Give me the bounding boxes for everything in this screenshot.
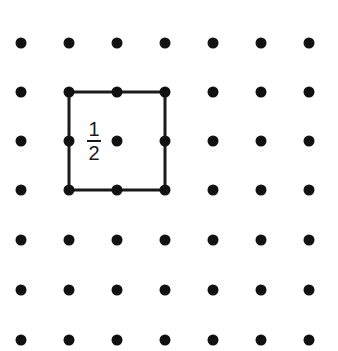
- grid-dot: [208, 235, 219, 246]
- grid-dot: [304, 185, 315, 196]
- grid-dots: [16, 38, 315, 346]
- grid-dot: [304, 235, 315, 246]
- grid-dot: [208, 87, 219, 98]
- grid-dot: [160, 87, 171, 98]
- grid-dot: [160, 185, 171, 196]
- grid-dot: [304, 285, 315, 296]
- grid-dot: [112, 87, 123, 98]
- grid-dot: [112, 136, 123, 147]
- grid-dot: [304, 38, 315, 49]
- grid-dot: [208, 38, 219, 49]
- grid-dot: [160, 235, 171, 246]
- grid-dot: [208, 185, 219, 196]
- grid-dot: [256, 335, 267, 346]
- fraction-numerator: 1: [84, 119, 104, 139]
- grid-dot: [16, 87, 27, 98]
- grid-dot: [304, 87, 315, 98]
- grid-dot: [16, 185, 27, 196]
- grid-dot: [64, 38, 75, 49]
- grid-dot: [64, 87, 75, 98]
- grid-dot: [16, 285, 27, 296]
- grid-dot: [256, 235, 267, 246]
- grid-dot: [112, 235, 123, 246]
- grid-dot: [208, 335, 219, 346]
- grid-dot: [160, 136, 171, 147]
- grid-dot: [64, 335, 75, 346]
- grid-dot: [256, 185, 267, 196]
- grid-dot: [16, 38, 27, 49]
- grid-dot: [64, 185, 75, 196]
- grid-dot: [64, 285, 75, 296]
- grid-dot: [304, 136, 315, 147]
- grid-dot: [256, 136, 267, 147]
- grid-dot: [16, 335, 27, 346]
- dot-grid-diagram: [0, 0, 338, 351]
- grid-dot: [256, 285, 267, 296]
- grid-dot: [256, 38, 267, 49]
- grid-dot: [112, 185, 123, 196]
- grid-dot: [256, 87, 267, 98]
- fraction-denominator: 2: [84, 143, 104, 163]
- grid-dot: [160, 335, 171, 346]
- grid-dot: [160, 285, 171, 296]
- grid-dot: [208, 136, 219, 147]
- fraction-label: 1 2: [84, 119, 104, 163]
- grid-dot: [208, 285, 219, 296]
- grid-dot: [16, 136, 27, 147]
- grid-dot: [160, 38, 171, 49]
- grid-dot: [304, 335, 315, 346]
- grid-dot: [112, 335, 123, 346]
- grid-dot: [112, 285, 123, 296]
- grid-dot: [16, 235, 27, 246]
- grid-dot: [112, 38, 123, 49]
- grid-dot: [64, 136, 75, 147]
- grid-dot: [64, 235, 75, 246]
